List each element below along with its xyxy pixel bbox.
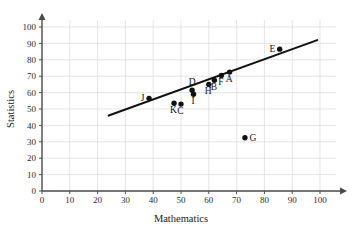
y-tick-label: 20 <box>27 153 37 163</box>
x-tick-label: 40 <box>149 195 159 205</box>
x-axis-arrow <box>340 188 347 195</box>
data-point-j[interactable] <box>146 96 151 101</box>
scatter-chart: 0102030405060708090100010203040506070809… <box>0 0 352 231</box>
data-point-label-e: E <box>269 44 275 54</box>
data-points: JKCDIHBFAGE <box>141 44 283 143</box>
y-axis-title: Statistics <box>5 90 16 128</box>
data-point-label-i: I <box>191 96 194 106</box>
data-point-e[interactable] <box>277 46 282 51</box>
y-tick-label: 40 <box>27 121 37 131</box>
data-point-label-k: K <box>170 105 177 115</box>
y-tick-label: 100 <box>23 22 37 32</box>
x-tick-label: 70 <box>232 195 242 205</box>
y-tick-label: 50 <box>27 104 37 114</box>
data-point-label-d: D <box>189 77 196 87</box>
x-tick-label: 100 <box>313 195 327 205</box>
y-tick-label: 70 <box>27 71 37 81</box>
y-axis-arrow <box>39 13 46 20</box>
data-point-label-f: F <box>218 77 223 87</box>
x-tick-label: 80 <box>260 195 270 205</box>
x-tick-label: 90 <box>288 195 298 205</box>
data-point-label-a: A <box>226 74 233 84</box>
trend-line <box>109 40 318 115</box>
x-tick-label: 60 <box>204 195 214 205</box>
data-point-g[interactable] <box>242 135 247 140</box>
y-tick-label: 0 <box>32 186 37 196</box>
x-axis-title: Mathematics <box>154 213 208 224</box>
y-tick-label: 80 <box>27 55 37 65</box>
x-tick-label: 30 <box>121 195 131 205</box>
x-tick-label: 0 <box>40 195 45 205</box>
gridlines <box>42 20 336 191</box>
y-tick-label: 60 <box>27 88 37 98</box>
plot-area: 0102030405060708090100010203040506070809… <box>0 0 352 231</box>
x-tick-label: 50 <box>177 195 187 205</box>
data-point-label-g: G <box>249 133 256 143</box>
data-point-label-j: J <box>141 93 145 103</box>
y-tick-label: 10 <box>27 170 37 180</box>
y-tick-label: 30 <box>27 137 37 147</box>
x-tick-label: 10 <box>65 195 75 205</box>
y-tick-label: 90 <box>27 39 37 49</box>
x-tick-label: 20 <box>93 195 103 205</box>
data-point-label-c: C <box>177 106 183 116</box>
data-point-label-b: B <box>211 82 217 92</box>
